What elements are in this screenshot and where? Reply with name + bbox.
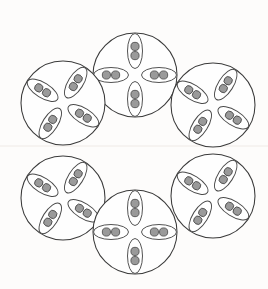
cell-top-center-pod-s[interactable] xyxy=(128,82,143,117)
cell-bottom-center[interactable] xyxy=(93,190,177,274)
pod-dot xyxy=(112,71,120,79)
pod-dot xyxy=(131,257,139,265)
cell-top-center[interactable] xyxy=(93,33,177,117)
pod-outline xyxy=(128,239,143,274)
pod-outline xyxy=(128,191,143,226)
cell-bottom-center-pod-w[interactable] xyxy=(94,225,129,240)
pod-dot xyxy=(131,42,139,50)
cell-top-center-pod-n[interactable] xyxy=(128,34,143,69)
pod-dot xyxy=(131,247,139,255)
pod-dot xyxy=(150,228,158,236)
pod-outline xyxy=(142,225,177,240)
cell-cluster-diagram xyxy=(0,0,268,289)
pod-dot xyxy=(112,228,120,236)
pod-dot xyxy=(160,228,168,236)
cell-top-center-pod-e[interactable] xyxy=(142,68,177,83)
cell-boundary xyxy=(171,63,255,147)
pod-outline xyxy=(128,34,143,69)
diagram-canvas xyxy=(0,0,268,289)
pod-outline xyxy=(142,68,177,83)
pod-dot xyxy=(102,71,110,79)
pod-dot xyxy=(102,228,110,236)
cell-bottom-center-pod-n[interactable] xyxy=(128,191,143,226)
pod-outline xyxy=(94,225,129,240)
pod-dot xyxy=(131,209,139,217)
cell-boundary xyxy=(21,156,105,240)
cell-lower-left[interactable] xyxy=(21,156,105,240)
pod-outline xyxy=(128,82,143,117)
cells-layer xyxy=(21,33,255,274)
pod-dot xyxy=(131,52,139,60)
pod-dot xyxy=(131,199,139,207)
cell-upper-left[interactable] xyxy=(21,61,105,145)
cell-bottom-center-pod-e[interactable] xyxy=(142,225,177,240)
pod-dot xyxy=(131,100,139,108)
pod-dot xyxy=(150,71,158,79)
cell-lower-right[interactable] xyxy=(171,154,255,238)
cell-upper-right[interactable] xyxy=(171,63,255,147)
pod-dot xyxy=(131,90,139,98)
pod-dot xyxy=(160,71,168,79)
cell-boundary xyxy=(171,154,255,238)
cell-boundary xyxy=(21,61,105,145)
cell-bottom-center-pod-s[interactable] xyxy=(128,239,143,274)
